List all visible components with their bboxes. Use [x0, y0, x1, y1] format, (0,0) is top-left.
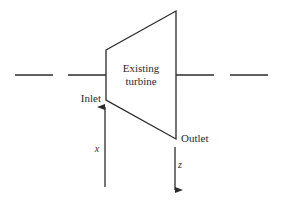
outlet-variable-z: z — [177, 159, 182, 170]
inlet-label: Inlet — [81, 92, 101, 104]
outlet-label: Outlet — [181, 132, 209, 144]
turbine-label-line1: Existing — [123, 62, 160, 74]
inlet-variable-x: x — [94, 143, 100, 154]
turbine-label-line2: turbine — [125, 75, 156, 87]
turbine-diagram: Existing turbine Inlet x Outlet z — [0, 0, 286, 200]
